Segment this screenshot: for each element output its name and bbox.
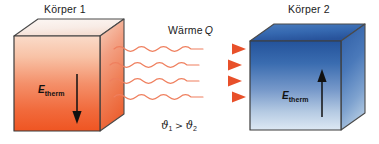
body2-energy-subscript: therm: [289, 96, 309, 103]
body2-side-face: [341, 24, 365, 130]
body2-front-face: [250, 41, 341, 130]
theta-2-subscript: 2: [193, 125, 197, 132]
body1-cube: [14, 19, 124, 131]
body1-energy-label: Etherm: [38, 84, 65, 95]
heat-flow-symbol: Q: [203, 24, 213, 36]
heat-arrowhead-3: [228, 76, 242, 87]
theta-1-symbol: ϑ: [161, 119, 169, 131]
temperature-relation-label: ϑ1>ϑ2: [161, 120, 197, 131]
heat-arrowhead-2: [228, 60, 242, 71]
relation-operator: >: [172, 120, 185, 131]
heat-wave-1: [114, 47, 203, 52]
theta-2-symbol: ϑ: [185, 119, 193, 131]
body2-energy-symbol: E: [282, 90, 289, 101]
theta-1-subscript: 1: [169, 125, 173, 132]
heat-flow-arrowheads: [228, 44, 246, 103]
heat-wave-4: [114, 95, 203, 100]
body2-label: Körper 2: [288, 4, 330, 15]
body1-energy-subscript: therm: [45, 90, 65, 97]
body1-side-face: [100, 19, 124, 131]
body2-cube: [250, 24, 365, 130]
body2-energy-label: Etherm: [282, 90, 309, 101]
body1-energy-symbol: E: [38, 84, 45, 95]
heat-flow-label-text: Wärme: [168, 24, 203, 36]
heat-transfer-figure: Körper 1 Körper 2 WärmeQ ϑ1>ϑ2 Etherm Et…: [0, 0, 379, 144]
heat-arrowhead-4: [232, 92, 246, 103]
heat-arrowhead-1: [232, 44, 246, 55]
body1-label: Körper 1: [44, 4, 86, 15]
heat-flow-label: WärmeQ: [168, 25, 213, 36]
